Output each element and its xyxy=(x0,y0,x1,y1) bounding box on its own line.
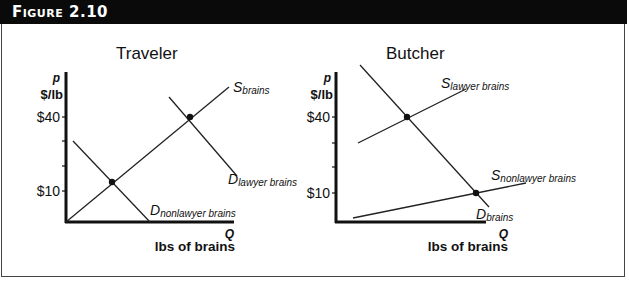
chart-butcher: Butcher p $/lb $40 $10 Q lbs of brains S… xyxy=(307,44,576,254)
supply-curve-brains xyxy=(66,87,229,222)
curve-label-d-nonlawyer-brains: Dnonlawyer brains xyxy=(150,202,236,219)
equilibrium-point xyxy=(109,179,115,185)
y-axis-label: $/lb xyxy=(41,87,63,102)
curve-label-s-brains: Sbrains xyxy=(233,79,270,96)
curve-label-d-brains: Dbrains xyxy=(476,206,513,223)
y-axis-label: $/lb xyxy=(311,87,333,102)
y-axis-symbol: p xyxy=(323,71,331,85)
x-axis-label: lbs of brains xyxy=(155,239,235,254)
y-tick-label: $10 xyxy=(37,183,61,199)
charts-canvas: Traveler p $/lb $40 $10 Q lbs of brains … xyxy=(0,0,629,281)
equilibrium-point xyxy=(404,114,410,120)
curve-label-s-lawyer-brains: Slawyer brains xyxy=(441,75,509,92)
equilibrium-point xyxy=(187,114,193,120)
y-tick-label: $40 xyxy=(37,109,61,125)
chart-title: Butcher xyxy=(386,44,445,63)
curve-label-d-lawyer-brains: Dlawyer brains xyxy=(228,171,297,188)
y-tick-label: $10 xyxy=(307,185,331,201)
chart-traveler: Traveler p $/lb $40 $10 Q lbs of brains … xyxy=(37,44,297,254)
x-axis-label: lbs of brains xyxy=(428,239,508,254)
curve-label-s-nonlawyer-brains: Snonlawyer brains xyxy=(491,167,576,184)
equilibrium-point xyxy=(473,190,479,196)
y-tick-label: $40 xyxy=(307,109,331,125)
y-axis-symbol: p xyxy=(52,71,60,85)
chart-title: Traveler xyxy=(116,44,178,63)
supply-curve-lawyer-brains xyxy=(358,89,466,143)
